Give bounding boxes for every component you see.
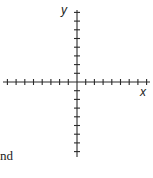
coordinate-plane (0, 0, 153, 178)
y-axis (74, 10, 80, 157)
y-axis-label: y (61, 4, 67, 16)
x-axis-label: x (140, 86, 146, 98)
text-fragment: nd (0, 149, 13, 162)
